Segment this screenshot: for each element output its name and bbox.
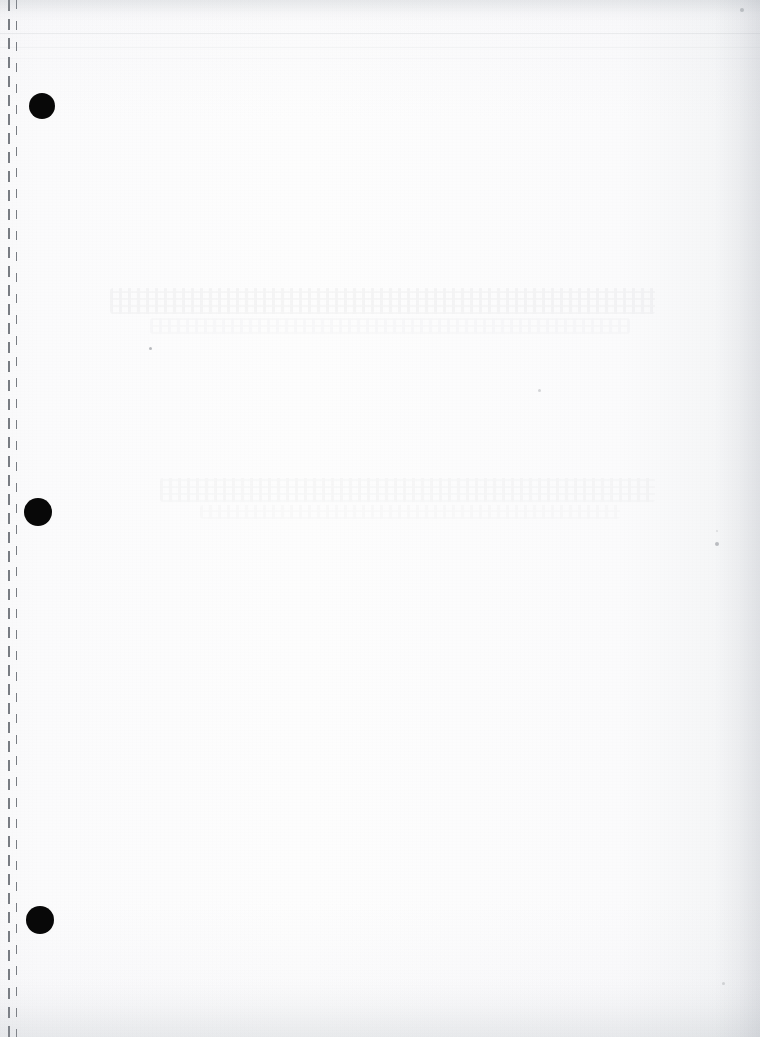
scan-line-lower [0, 47, 760, 48]
punch-hole-top [29, 93, 55, 119]
page-caption [0, 0, 1, 1]
paper-grain-texture [0, 0, 760, 1037]
speck-top-right [740, 8, 744, 12]
bleed-band-upper [110, 288, 655, 314]
bleed-band-upper-2 [150, 318, 630, 334]
page-edge-shadow-top [0, 0, 760, 22]
speck-center [538, 389, 541, 392]
scan-line-upper [0, 33, 760, 34]
scanned-page [0, 0, 760, 1037]
speck-bottom-right [722, 982, 725, 985]
bleed-band-middle-2 [200, 505, 620, 519]
speck-left-mid [149, 347, 152, 350]
punch-hole-bottom [26, 906, 54, 934]
scan-line-faint [0, 58, 760, 59]
bleed-band-middle [160, 478, 655, 502]
punch-hole-middle [24, 498, 52, 526]
page-edge-shadow-right [714, 0, 760, 1037]
speck-right-low [716, 530, 718, 532]
page-edge-shadow-bottom [0, 979, 760, 1037]
perforation-line [8, 0, 10, 1037]
perforation-line-secondary [16, 0, 17, 1037]
speck-right-mid [715, 542, 719, 546]
